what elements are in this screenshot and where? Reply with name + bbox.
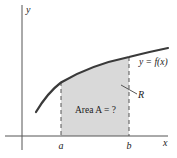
curve-label: y = f(x) <box>138 57 168 68</box>
bound-b-label: b <box>127 140 132 151</box>
area-label: Area A = ? <box>75 105 116 115</box>
region-label: R <box>137 89 144 100</box>
bound-a-label: a <box>59 140 64 151</box>
x-axis-label: x <box>162 137 168 148</box>
shaded-region <box>61 57 129 136</box>
area-diagram: y x a b y = f(x) R Area A = ? <box>0 0 177 158</box>
y-axis-label: y <box>25 4 31 15</box>
